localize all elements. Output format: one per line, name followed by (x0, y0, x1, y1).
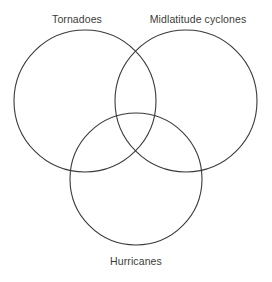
circle-outline-icon-hurricanes (70, 113, 202, 245)
venn-set-label-midlatitude-cyclones: Midlatitude cyclones (150, 13, 247, 26)
venn-set-label-hurricanes: Hurricanes (110, 255, 162, 268)
venn-diagram-figure: Tornadoes Midlatitude cyclones Hurricane… (0, 0, 272, 282)
venn-diagram-canvas (0, 0, 272, 282)
venn-set-label-tornadoes: Tornadoes (52, 13, 102, 26)
